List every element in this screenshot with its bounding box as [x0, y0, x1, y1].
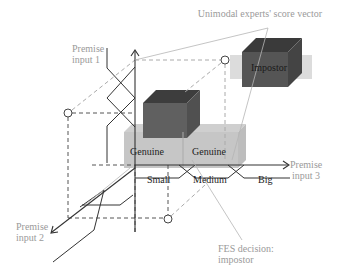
dark-box: [143, 90, 200, 138]
fes-decision-label: FES decision:: [218, 243, 274, 254]
fuzzy-set-medium: Medium: [193, 174, 227, 185]
premise-input-1-label: Premise: [72, 43, 105, 54]
point-marker: [64, 109, 72, 117]
fuzzy-set-small: Small: [147, 174, 171, 185]
score-vector-label: Unimodal experts' score vector: [198, 8, 323, 19]
premise-input-3-label-2: input 3: [292, 170, 320, 181]
point-marker: [164, 215, 172, 223]
impostor-label: Impostor: [251, 62, 288, 73]
premise-input-2-label: Premise: [16, 221, 49, 232]
premise-input-1-label-2: input 1: [72, 54, 100, 65]
premise-input-3-label: Premise: [290, 159, 323, 170]
fuzzy-expert-system-diagram: Unimodal experts' score vector Premise i…: [0, 0, 337, 277]
fes-decision-label-2: impostor: [218, 254, 254, 265]
fuzzy-set-big: Big: [258, 174, 272, 185]
genuine-label-right: Genuine: [192, 146, 226, 157]
genuine-label-left: Genuine: [130, 146, 164, 157]
premise-input-2-label-2: input 2: [16, 232, 44, 243]
point-marker: [221, 56, 229, 64]
